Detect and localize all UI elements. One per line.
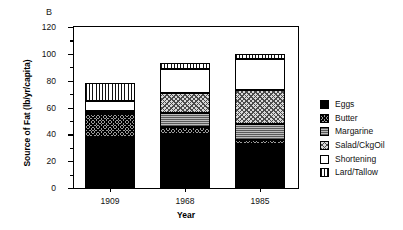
legend-item-salad-ckgoil[interactable]: Salad/CkgOil — [320, 139, 385, 153]
legend-swatch — [320, 127, 329, 136]
legend-item-lard-tallow[interactable]: Lard/Tallow — [320, 166, 385, 180]
legend-item-eggs[interactable]: Eggs — [320, 98, 385, 112]
bar-segment-butter[interactable] — [85, 114, 135, 137]
bar-segment-eggs[interactable] — [85, 137, 135, 188]
bar-segment-margarine[interactable] — [235, 124, 285, 140]
y-tick-label: 20 — [47, 157, 56, 166]
legend-item-margarine[interactable]: Margarine — [320, 125, 385, 139]
y-tick-label: 100 — [42, 50, 56, 59]
legend-item-butter[interactable]: Butter — [320, 112, 385, 126]
legend: EggsButterMargarineSalad/CkgOilShortenin… — [320, 98, 385, 180]
legend-swatch — [320, 168, 329, 177]
legend-label: Margarine — [335, 127, 373, 136]
bar-segment-butter[interactable] — [160, 127, 210, 134]
legend-label: Shortening — [335, 155, 376, 164]
legend-swatch — [320, 114, 329, 123]
legend-label: Eggs — [335, 100, 354, 109]
bar-segment-lard-tallow[interactable] — [160, 63, 210, 68]
bar-segment-eggs[interactable] — [235, 144, 285, 188]
bar-segment-lard-tallow[interactable] — [235, 54, 285, 59]
bar-1968[interactable] — [160, 63, 210, 188]
bar-segment-shortening[interactable] — [235, 59, 285, 90]
legend-swatch — [320, 155, 329, 164]
x-axis-title: Year — [73, 210, 299, 220]
legend-swatch — [320, 100, 329, 109]
y-tick-label: 120 — [42, 23, 56, 32]
y-tick-label: 60 — [47, 103, 56, 112]
y-tick-label: 0 — [51, 184, 56, 193]
bar-segment-shortening[interactable] — [160, 69, 210, 93]
y-tick-label: 80 — [47, 76, 56, 85]
x-tick — [110, 188, 111, 192]
legend-label: Butter — [335, 114, 358, 123]
figure-panel-b: B 020406080100120 190919681985 Source of… — [0, 0, 403, 230]
legend-item-shortening[interactable]: Shortening — [320, 152, 385, 166]
bar-1909[interactable] — [85, 83, 135, 188]
legend-swatch — [320, 141, 329, 150]
y-tick-label: 40 — [47, 130, 56, 139]
bar-segment-lard-tallow[interactable] — [85, 83, 135, 100]
legend-label: Lard/Tallow — [335, 168, 378, 177]
bar-segment-salad-ckgoil[interactable] — [235, 90, 285, 124]
bar-segment-salad-ckgoil[interactable] — [85, 111, 135, 113]
bar-segment-margarine[interactable] — [160, 113, 210, 127]
x-tick-label: 1968 — [176, 196, 195, 206]
x-tick-label: 1985 — [251, 196, 270, 206]
y-axis-title: Source of Fat (lb/yr/capita) — [22, 38, 32, 188]
bar-segment-butter[interactable] — [235, 140, 285, 144]
x-tick — [185, 188, 186, 192]
panel-label: B — [46, 7, 52, 17]
legend-label: Salad/CkgOil — [335, 141, 385, 150]
bar-segment-shortening[interactable] — [85, 101, 135, 111]
bar-segment-eggs[interactable] — [160, 134, 210, 188]
y-tick-major — [68, 188, 73, 189]
bar-segment-salad-ckgoil[interactable] — [160, 93, 210, 113]
x-tick — [260, 188, 261, 192]
plot-area — [73, 27, 298, 188]
bar-1985[interactable] — [235, 54, 285, 188]
x-tick-label: 1909 — [101, 196, 120, 206]
